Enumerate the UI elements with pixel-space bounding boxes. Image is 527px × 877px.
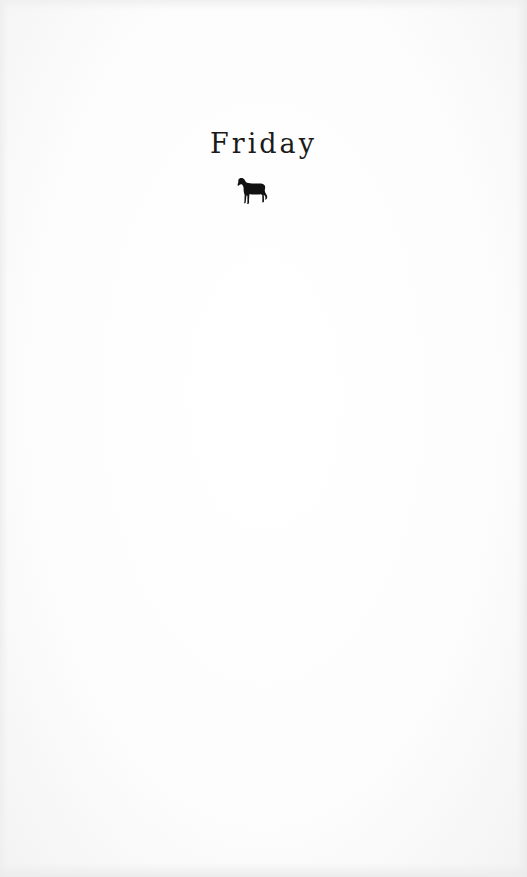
chapter-title: Friday [0,126,527,162]
book-page: Friday [0,0,527,877]
dog-silhouette-icon [233,175,273,215]
page-edge-top [0,0,527,10]
page-edge-bottom [0,863,527,877]
